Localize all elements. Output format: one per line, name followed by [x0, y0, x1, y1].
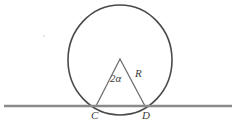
- geometry-canvas: [0, 0, 235, 130]
- point-c-label: C: [91, 110, 98, 121]
- point-d-label: D: [142, 110, 150, 121]
- geometry-figure: 2α R C D: [0, 0, 235, 130]
- scan-artifact-speck: [43, 35, 45, 37]
- radius-label: R: [135, 68, 142, 79]
- apex-angle-label: 2α: [110, 73, 121, 84]
